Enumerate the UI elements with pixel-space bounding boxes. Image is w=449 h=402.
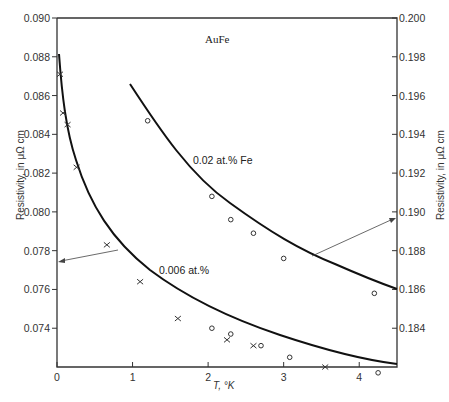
arrowhead-icon bbox=[389, 218, 396, 223]
data-point-circle bbox=[251, 231, 256, 236]
series-label-high: 0.02 at.% Fe bbox=[193, 154, 253, 166]
left-y-axis: 0.0900.0880.0860.0840.0820.0800.0780.076… bbox=[24, 12, 57, 334]
x-tick-label: 1 bbox=[130, 371, 136, 383]
fit-curve-0006 bbox=[59, 54, 397, 364]
data-point-circle bbox=[145, 118, 150, 123]
x-axis-title: T, °K bbox=[213, 380, 236, 391]
x-tick-label: 2 bbox=[205, 371, 211, 383]
left-y-tick-label: 0.078 bbox=[24, 245, 50, 257]
data-point-circle bbox=[228, 217, 233, 222]
x-tick-label: 4 bbox=[356, 371, 362, 383]
resistivity-chart: 01234 0.0900.0880.0860.0840.0820.0800.07… bbox=[0, 0, 449, 402]
data-point-cross bbox=[250, 343, 256, 348]
right-y-tick-label: 0.192 bbox=[399, 167, 425, 179]
left-y-tick-label: 0.088 bbox=[24, 51, 50, 63]
data-point-circle bbox=[259, 343, 264, 348]
x-tick-label: 3 bbox=[281, 371, 287, 383]
data-point-circle bbox=[376, 371, 381, 376]
right-y-tick-label: 0.198 bbox=[399, 51, 425, 63]
arrowhead-icon bbox=[58, 258, 65, 263]
fit-curves bbox=[59, 54, 397, 364]
right-y-tick-label: 0.190 bbox=[399, 206, 425, 218]
left-y-tick-label: 0.074 bbox=[24, 322, 50, 334]
right-y-tick-label: 0.196 bbox=[399, 90, 425, 102]
left-y-tick-label: 0.086 bbox=[24, 90, 50, 102]
arrow-to-right-axis bbox=[312, 219, 393, 256]
left-y-tick-label: 0.090 bbox=[24, 12, 50, 24]
x-tick-label: 0 bbox=[54, 371, 60, 383]
data-point-cross bbox=[137, 279, 143, 284]
fit-curve-002 bbox=[130, 84, 397, 289]
annotation-arrows bbox=[58, 218, 396, 263]
data-point-circle bbox=[372, 291, 377, 296]
left-y-tick-label: 0.082 bbox=[24, 167, 50, 179]
left-y-axis-title: Resistivity, in μΩ cm bbox=[15, 130, 26, 220]
data-point-cross bbox=[104, 242, 110, 247]
right-y-tick-label: 0.188 bbox=[399, 245, 425, 257]
chart-title: AuFe bbox=[205, 33, 230, 45]
x-axis: 01234 bbox=[54, 362, 362, 383]
series-label-low: 0.006 at.% bbox=[159, 264, 209, 276]
left-y-tick-label: 0.076 bbox=[24, 283, 50, 295]
data-point-circle bbox=[287, 355, 292, 360]
arrow-to-left-axis bbox=[61, 250, 118, 261]
right-y-tick-label: 0.194 bbox=[399, 128, 425, 140]
data-point-circle bbox=[281, 256, 286, 261]
right-y-tick-label: 0.184 bbox=[399, 322, 425, 334]
data-point-circle bbox=[210, 194, 215, 199]
left-y-tick-label: 0.080 bbox=[24, 206, 50, 218]
data-point-cross bbox=[175, 316, 181, 321]
data-point-cross bbox=[224, 337, 230, 342]
right-y-axis-title: Resistivity, in μΩ cm bbox=[435, 130, 446, 220]
data-point-circle bbox=[210, 326, 215, 331]
data-point-circle bbox=[228, 332, 233, 337]
right-y-tick-label: 0.200 bbox=[399, 12, 425, 24]
right-y-tick-label: 0.186 bbox=[399, 283, 425, 295]
left-y-tick-label: 0.084 bbox=[24, 128, 50, 140]
